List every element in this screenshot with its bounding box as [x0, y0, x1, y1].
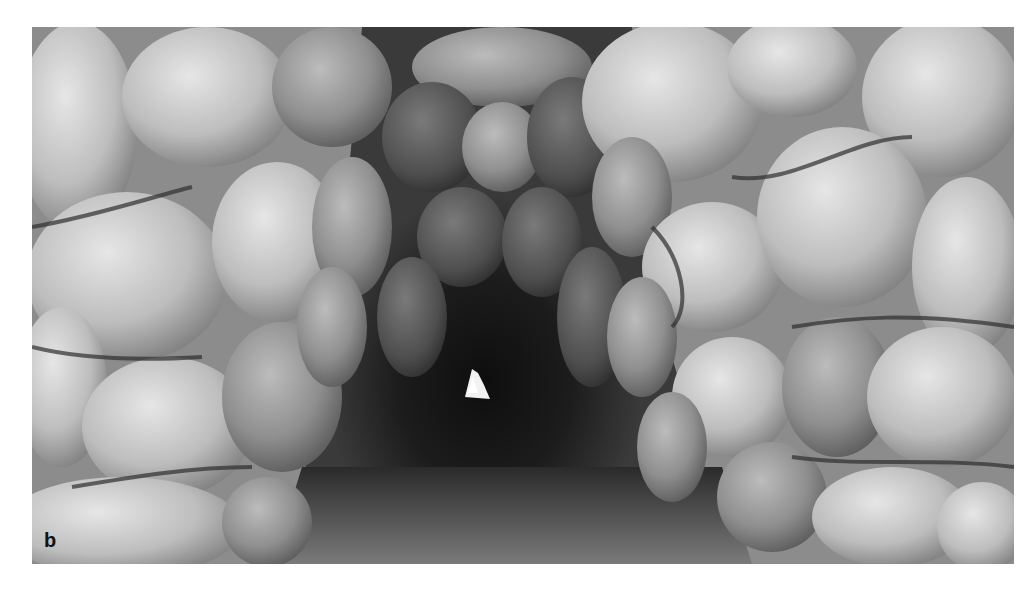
tunnel-image: [32, 27, 1014, 564]
panel-label: b: [44, 530, 56, 550]
tunnel-photograph: [32, 27, 1014, 564]
